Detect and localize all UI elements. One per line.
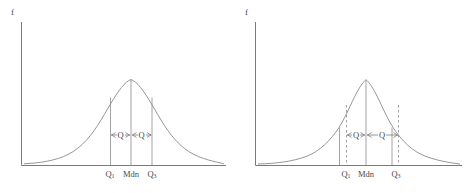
panel-leptokurtic: f Q1 Mdn Q3 Q Q	[234, 0, 469, 193]
panel-right-graphic	[234, 0, 469, 193]
y-axis-label: f	[11, 8, 14, 17]
distribution-curve	[258, 80, 460, 164]
panel-left-graphic	[0, 0, 235, 193]
quartile-lines-left	[111, 80, 153, 165]
tick-label-q3: Q3	[147, 170, 156, 179]
panel-mesokurtic: f Q1 Mdn Q3 Q Q	[0, 0, 235, 193]
tick-label-mdn: Mdn	[123, 170, 139, 179]
tick-label-q3-sub: 3	[398, 173, 401, 179]
axes-right	[256, 22, 463, 166]
tick-label-q3: Q3	[391, 170, 400, 179]
axes-left	[22, 22, 227, 166]
q-interval-label-right: Q	[378, 131, 386, 140]
tick-label-q1-sub: 1	[348, 173, 351, 179]
tick-label-q1-sub: 1	[112, 173, 115, 179]
y-axis-label: f	[245, 8, 248, 17]
q-interval-label-left: Q	[116, 131, 124, 140]
q-interval-label-left: Q	[352, 131, 360, 140]
tick-label-mdn: Mdn	[358, 170, 374, 179]
tick-label-q3-sub: 3	[154, 173, 157, 179]
tick-label-q1: Q1	[341, 170, 350, 179]
q-interval-label-right: Q	[137, 131, 145, 140]
quartile-distribution-figure: f Q1 Mdn Q3 Q Q	[0, 0, 469, 193]
distribution-curve	[24, 80, 224, 164]
tick-label-q1: Q1	[105, 170, 114, 179]
